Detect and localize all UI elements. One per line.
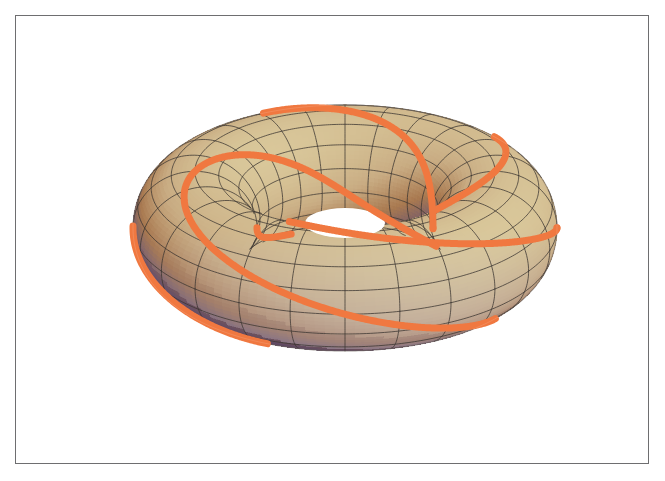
figure-root: Torus with helical curves A shaded three… [0, 0, 665, 481]
torus-illustration [0, 0, 665, 481]
